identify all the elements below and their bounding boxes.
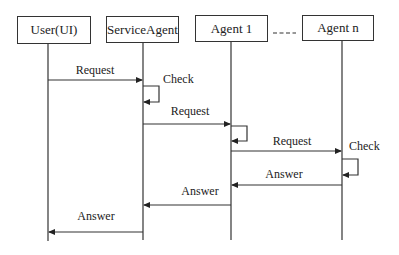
self-check-service-label: Check (163, 72, 194, 87)
message-request-2-label: Request (171, 104, 210, 119)
message-answer-2-label: Answer (181, 184, 218, 199)
self-check-agent-n (342, 159, 358, 175)
self-check-service (143, 86, 159, 102)
message-request-3-label: Request (273, 134, 312, 149)
message-answer-3-label: Answer (77, 209, 114, 224)
self-check-agent-n-label: Check (349, 139, 380, 154)
message-request-1-label: Request (76, 63, 115, 78)
self-check-agent-1 (231, 126, 247, 141)
sequence-lines (0, 0, 399, 255)
message-answer-1-label: Answer (265, 167, 302, 182)
